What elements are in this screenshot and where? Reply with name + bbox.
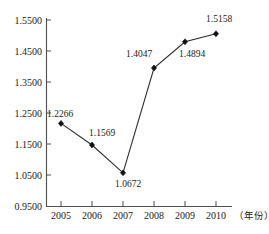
y-axis-tick-label: 1.4500 [15,46,43,57]
y-axis-tick-label: 0.9500 [15,201,43,212]
data-point-label: 1.4047 [126,49,152,59]
x-axis-tick-label: 2009 [175,210,195,221]
data-point-label: 1.4894 [179,49,205,59]
x-axis-tick-label: 2010 [206,210,226,221]
x-axis-tick-label: 2005 [51,210,71,221]
y-axis-tick-label: 1.5500 [15,15,43,26]
data-point-label: 1.0672 [115,179,141,189]
data-point-label: 1.5158 [206,14,232,24]
x-axis-unit-label: （年份） [234,210,269,221]
data-point-marker [58,120,63,126]
y-axis-tick-label: 1.2500 [15,108,43,119]
x-axis-tick-label: 2006 [82,210,102,221]
y-axis-tick-label: 1.3500 [15,77,43,88]
data-point-marker [213,31,218,37]
line-chart: 1.5500 1.4500 1.3500 1.2500 1.1500 1.050… [0,0,269,234]
data-point-label: 1.1569 [89,128,115,138]
y-axis-tick-label: 1.1500 [15,139,43,150]
y-axis-tick-label: 1.0500 [15,170,43,181]
x-axis-tick-label: 2007 [113,210,133,221]
data-point-label: 1.2266 [47,109,73,119]
chart-plot-area: 1.5500 1.4500 1.3500 1.2500 1.1500 1.050… [0,0,269,234]
x-axis-tick-label: 2008 [144,210,164,221]
